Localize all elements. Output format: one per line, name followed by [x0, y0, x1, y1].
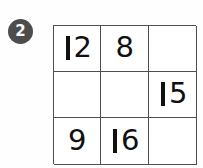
grid-cell-value: 9 [68, 126, 86, 155]
grid-cell-r1c1[interactable]: 2 [54, 26, 101, 72]
grid-cell-r1c2[interactable]: 8 [101, 26, 149, 72]
grid-cell-r2c3[interactable]: 5 [149, 72, 197, 118]
number-grid: 2 8 5 9 6 [53, 25, 196, 164]
grid-cell-value: 2 [63, 33, 92, 62]
question-number-badge: 2 [8, 19, 33, 44]
grid-cell-r1c3[interactable] [149, 26, 197, 72]
question-number-label: 2 [15, 24, 25, 39]
grid-cell-value: 5 [158, 79, 187, 108]
worksheet-canvas: 2 2 8 5 9 6 [0, 0, 203, 168]
grid-cell-value: 8 [116, 33, 134, 62]
grid-cell-r2c2[interactable] [101, 72, 149, 118]
grid-cell-r3c3[interactable] [149, 118, 197, 165]
grid-cell-r3c1[interactable]: 9 [54, 118, 101, 165]
grid-cell-r3c2[interactable]: 6 [101, 118, 149, 165]
grid-cell-value: 6 [110, 126, 139, 155]
grid-cell-r2c1[interactable] [54, 72, 101, 118]
